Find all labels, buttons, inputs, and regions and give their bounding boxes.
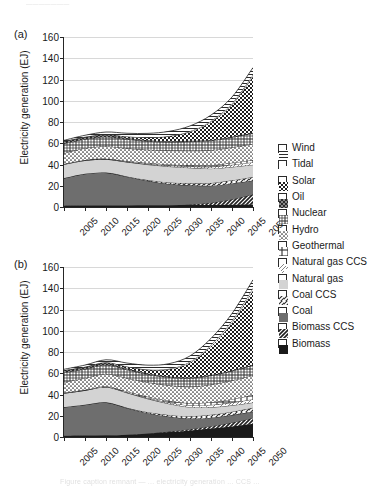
x-tick-mark-2010	[85, 437, 86, 441]
x-tick-mark-2005	[64, 207, 65, 211]
legend-swatch-dense-checker-icon	[278, 176, 287, 185]
x-tick-label-2045: 2045	[245, 215, 268, 238]
stacked-area-a	[64, 37, 253, 207]
legend-label: Wind	[292, 143, 315, 153]
legend-swatch-light-gray-icon	[278, 274, 287, 283]
y-tick-mark-100	[60, 331, 64, 332]
y-tick-label-40: 40	[48, 389, 59, 400]
x-tick-mark-2050	[253, 437, 254, 441]
legend-swatch-light-diagonal-icon	[278, 258, 287, 267]
legend-label: Hydro	[292, 225, 319, 235]
y-tick-mark-20	[60, 416, 64, 417]
panel-a-y-axis-title: Electricity generation (EJ)	[19, 23, 30, 193]
legend-item-natural-gas[interactable]: Natural gas	[278, 270, 388, 286]
legend-item-hydro[interactable]: Hydro	[278, 221, 388, 237]
legend: Wind Tidal Solar Oil Nuclear Hydro Geoth…	[278, 140, 388, 352]
x-tick-label-2045: 2045	[245, 445, 268, 468]
x-tick-label-2035: 2035	[203, 445, 226, 468]
x-tick-mark-2030	[169, 207, 170, 211]
y-tick-label-100: 100	[42, 325, 59, 336]
legend-item-oil[interactable]: Oil	[278, 189, 388, 205]
x-tick-label-2050: 2050	[266, 445, 289, 468]
x-tick-mark-2045	[232, 437, 233, 441]
y-tick-label-40: 40	[48, 159, 59, 170]
y-tick-label-100: 100	[42, 95, 59, 106]
y-tick-label-160: 160	[42, 32, 59, 43]
x-tick-label-2030: 2030	[182, 445, 205, 468]
y-tick-mark-140	[60, 288, 64, 289]
legend-item-solar[interactable]: Solar	[278, 173, 388, 189]
x-tick-label-2040: 2040	[224, 445, 247, 468]
x-tick-label-2020: 2020	[140, 445, 163, 468]
legend-item-coal-ccs[interactable]: Coal CCS	[278, 287, 388, 303]
x-tick-mark-2035	[190, 207, 191, 211]
y-tick-label-20: 20	[48, 410, 59, 421]
y-tick-label-160: 160	[42, 262, 59, 273]
x-tick-label-2010: 2010	[98, 445, 121, 468]
legend-item-biomass[interactable]: Biomass	[278, 336, 388, 352]
x-tick-mark-2005	[64, 437, 65, 441]
legend-item-geothermal[interactable]: Geothermal	[278, 238, 388, 254]
scan-artifact-bottom: Figure caption remnant — ... electricity…	[60, 478, 260, 485]
x-tick-mark-2035	[190, 437, 191, 441]
panel-a: (a) Electricity generation (EJ) 02040608…	[0, 22, 270, 237]
legend-swatch-bold-diagonal-icon	[278, 323, 287, 332]
y-tick-label-80: 80	[48, 117, 59, 128]
legend-label: Coal	[292, 306, 313, 316]
legend-label: Solar	[292, 176, 315, 186]
legend-item-natural-gas-ccs[interactable]: Natural gas CCS	[278, 254, 388, 270]
x-tick-label-2025: 2025	[161, 445, 184, 468]
legend-label: Geothermal	[292, 241, 344, 251]
y-tick-label-60: 60	[48, 138, 59, 149]
y-tick-label-0: 0	[53, 432, 59, 443]
legend-item-biomass-ccs[interactable]: Biomass CCS	[278, 319, 388, 335]
x-tick-mark-2045	[232, 207, 233, 211]
y-tick-mark-120	[60, 80, 64, 81]
x-tick-label-2035: 2035	[203, 215, 226, 238]
y-tick-mark-40	[60, 165, 64, 166]
legend-swatch-solid-black-icon	[278, 339, 287, 348]
legend-label: Tidal	[292, 159, 313, 169]
x-tick-label-2005: 2005	[77, 215, 100, 238]
x-tick-label-2040: 2040	[224, 215, 247, 238]
x-tick-mark-2040	[211, 207, 212, 211]
legend-item-nuclear[interactable]: Nuclear	[278, 205, 388, 221]
y-tick-label-140: 140	[42, 53, 59, 64]
y-tick-label-60: 60	[48, 368, 59, 379]
panel-b: (b) Electricity generation (EJ) 02040608…	[0, 252, 270, 467]
y-tick-mark-80	[60, 352, 64, 353]
legend-swatch-grid-squares-icon	[278, 209, 287, 218]
y-tick-label-120: 120	[42, 74, 59, 85]
legend-swatch-dark-dotted-icon	[278, 193, 287, 202]
x-tick-mark-2025	[148, 437, 149, 441]
legend-label: Coal CCS	[292, 290, 336, 300]
legend-swatch-diagonal-hatch-icon	[278, 290, 287, 299]
y-tick-mark-140	[60, 58, 64, 59]
x-tick-mark-2015	[106, 437, 107, 441]
y-tick-mark-60	[60, 373, 64, 374]
legend-label: Biomass	[292, 339, 330, 349]
legend-item-wind[interactable]: Wind	[278, 140, 388, 156]
legend-item-coal[interactable]: Coal	[278, 303, 388, 319]
legend-label: Natural gas CCS	[292, 257, 367, 267]
y-tick-label-0: 0	[53, 202, 59, 213]
y-tick-label-20: 20	[48, 180, 59, 191]
legend-item-tidal[interactable]: Tidal	[278, 156, 388, 172]
y-tick-label-140: 140	[42, 283, 59, 294]
legend-swatch-horizontal-lines-icon	[278, 144, 287, 153]
x-tick-label-2025: 2025	[161, 215, 184, 238]
legend-swatch-blank-icon	[278, 160, 287, 169]
y-tick-mark-20	[60, 186, 64, 187]
legend-swatch-solid-gray-icon	[278, 307, 287, 316]
legend-swatch-fine-dotted-icon	[278, 225, 287, 234]
x-tick-label-2005: 2005	[77, 445, 100, 468]
legend-label: Oil	[292, 192, 304, 202]
y-tick-mark-100	[60, 101, 64, 102]
y-tick-mark-40	[60, 395, 64, 396]
legend-label: Natural gas	[292, 274, 343, 284]
y-tick-mark-80	[60, 122, 64, 123]
x-tick-label-2030: 2030	[182, 215, 205, 238]
x-tick-mark-2030	[169, 437, 170, 441]
figure-stacked-area-electricity-generation: ——————— (a) Electricity generation (EJ) …	[0, 0, 391, 487]
y-tick-label-80: 80	[48, 347, 59, 358]
